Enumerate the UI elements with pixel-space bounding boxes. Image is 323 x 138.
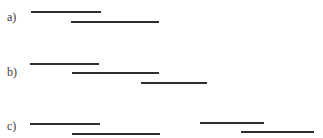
- interval-segment: [241, 131, 314, 133]
- interval-segment: [71, 21, 159, 23]
- interval-segment: [72, 133, 160, 135]
- row-label-c: c): [7, 120, 16, 132]
- interval-segment: [141, 82, 207, 84]
- interval-segment: [200, 122, 264, 124]
- interval-segment: [72, 72, 159, 74]
- interval-segment: [31, 11, 101, 13]
- interval-segment: [30, 123, 100, 125]
- row-label-a: a): [7, 11, 16, 23]
- interval-segment: [30, 63, 99, 65]
- row-label-b: b): [7, 66, 17, 78]
